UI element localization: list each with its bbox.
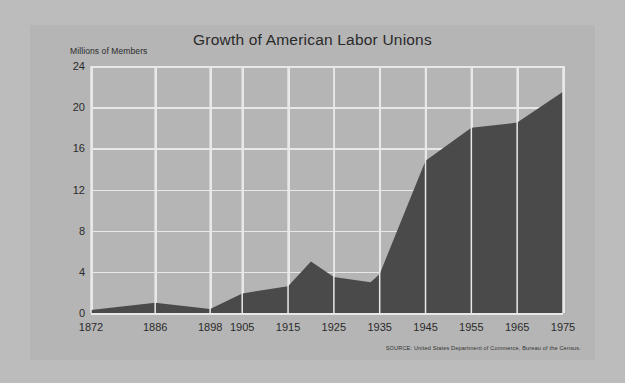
gridline-vertical-overlay — [209, 66, 211, 313]
x-tick-label: 1965 — [505, 321, 529, 333]
x-tick-label: 1945 — [413, 321, 437, 333]
gridline-vertical-overlay — [471, 66, 473, 313]
y-axis-label: Millions of Members — [70, 46, 147, 56]
y-tick-label: 8 — [79, 225, 85, 237]
gridline-vertical-overlay — [90, 66, 92, 313]
y-tick-label: 24 — [73, 60, 85, 72]
x-tick-label: 1935 — [367, 321, 391, 333]
y-tick-label: 16 — [73, 142, 85, 154]
gridline-vertical-overlay — [287, 66, 289, 313]
gridline-vertical-overlay — [425, 66, 427, 313]
y-tick-label: 0 — [79, 307, 85, 319]
gridline-vertical-overlay — [562, 66, 564, 313]
x-tick-label: 1975 — [551, 321, 575, 333]
y-tick-label: 12 — [73, 184, 85, 196]
plot-area: 04812162024 1872188618981905191519251935… — [91, 66, 563, 313]
x-tick-label: 1872 — [79, 321, 103, 333]
area-series — [91, 66, 563, 313]
gridline-vertical-overlay — [516, 66, 518, 313]
y-tick-label: 20 — [73, 101, 85, 113]
x-tick-label: 1898 — [198, 321, 222, 333]
page-root: Growth of American Labor Unions Millions… — [0, 0, 625, 383]
x-tick-label: 1886 — [143, 321, 167, 333]
gridline-vertical-overlay — [241, 66, 243, 313]
x-tick-label: 1915 — [276, 321, 300, 333]
gridline-vertical-overlay — [379, 66, 381, 313]
gridline-vertical-overlay — [333, 66, 335, 313]
gridline-horizontal — [91, 313, 563, 315]
source-note: SOURCE: United States Department of Comm… — [386, 345, 581, 351]
y-tick-label: 4 — [79, 266, 85, 278]
area-path — [91, 92, 563, 313]
x-tick-label: 1925 — [322, 321, 346, 333]
chart-card: Growth of American Labor Unions Millions… — [30, 25, 595, 360]
x-tick-label: 1955 — [459, 321, 483, 333]
gridline-vertical-overlay — [154, 66, 156, 313]
x-tick-label: 1905 — [230, 321, 254, 333]
